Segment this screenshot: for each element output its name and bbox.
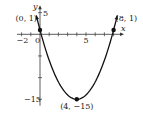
data-point bbox=[38, 28, 42, 32]
y-tick-label: 5 bbox=[43, 9, 48, 18]
data-point bbox=[75, 97, 79, 101]
y-axis-label: y bbox=[32, 2, 38, 11]
y-axis-arrow bbox=[38, 5, 42, 9]
point-label: (8, 1) bbox=[116, 14, 138, 23]
x-tick-label: 0 bbox=[35, 36, 40, 45]
x-tick-label: −2 bbox=[17, 36, 29, 45]
x-axis-label: x bbox=[121, 24, 126, 33]
data-point bbox=[111, 28, 115, 32]
point-label: (0, 1) bbox=[15, 14, 37, 23]
parabola-chart: −2055−15 xy(0, 1)(8, 1)(4, −15) bbox=[0, 0, 143, 118]
parabola-curve bbox=[36, 15, 117, 99]
point-label: (4, −15) bbox=[60, 102, 93, 111]
x-tick-label: 5 bbox=[84, 36, 89, 45]
y-tick-label: −15 bbox=[24, 95, 41, 104]
